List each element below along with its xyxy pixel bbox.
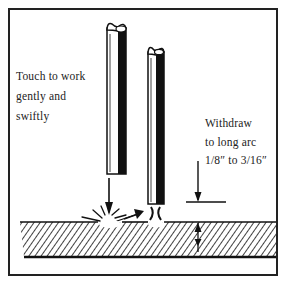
electrode-touching: [107, 24, 126, 174]
touch-line-3: swiftly: [16, 106, 86, 126]
withdraw-instruction-label: Withdraw to long arc 1/8″ to 3/16″: [205, 114, 267, 170]
withdraw-line-2: to long arc: [205, 133, 267, 152]
touch-line-1: Touch to work: [16, 66, 86, 86]
workpiece-plate: [18, 220, 278, 258]
touch-instruction-label: Touch to work gently and swiftly: [16, 66, 86, 126]
arc-gap-icon: [150, 207, 161, 220]
withdraw-arrow-icon: [124, 209, 144, 219]
touch-line-2: gently and: [16, 86, 86, 106]
withdraw-line-1: Withdraw: [205, 114, 267, 133]
electrode-withdrawn: [148, 48, 164, 204]
welding-arc-diagram: Touch to work gently and swiftly Withdra…: [0, 0, 286, 282]
withdraw-line-3: 1/8″ to 3/16″: [205, 151, 267, 170]
